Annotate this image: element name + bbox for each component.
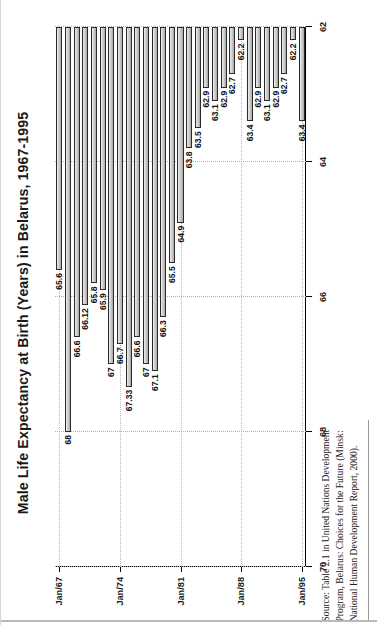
bar	[264, 27, 270, 101]
bar-value-label: 67.33	[124, 390, 134, 412]
bar-value-label: 66.6	[72, 341, 82, 358]
chart-title-container: Male Life Expectancy at Birth (Years) in…	[0, 0, 46, 625]
bar	[247, 27, 253, 122]
bar-value-label: 66.3	[158, 320, 168, 337]
bar-value-label: 63.4	[245, 125, 255, 142]
bar	[177, 27, 183, 223]
bar	[91, 27, 97, 284]
bar-value-label: 67	[106, 368, 116, 378]
value-tick	[306, 161, 312, 162]
bar-value-label: 66.12	[80, 308, 90, 330]
bar	[74, 27, 80, 338]
value-tick	[306, 26, 312, 27]
bar	[117, 27, 123, 344]
value-tick-label: 62	[318, 22, 328, 32]
category-tick-label: Jan/81	[176, 577, 186, 606]
bar	[299, 27, 305, 122]
bar	[221, 27, 227, 88]
bar-value-label: 65.6	[54, 273, 64, 290]
scan-edge-left	[0, 0, 1, 625]
bar	[203, 27, 209, 88]
bar-value-label: 68	[63, 435, 73, 445]
bar-value-label: 62.7	[279, 77, 289, 94]
category-tick	[241, 567, 242, 572]
value-tick-label: 64	[318, 157, 328, 167]
plot-rotation-wrapper: 65.66866.666.1265.865.96766.767.3366.667…	[55, 27, 306, 567]
bar-value-label: 62.2	[288, 44, 298, 61]
bar	[82, 27, 88, 305]
bar	[186, 27, 192, 149]
bar-value-label: 63.4	[297, 125, 307, 142]
scan-edge-bottom	[0, 620, 377, 622]
source-divider	[368, 420, 369, 620]
bar	[238, 27, 244, 41]
bar-value-label: 65.9	[98, 293, 108, 310]
category-tick	[59, 567, 60, 572]
bar-value-label: 66.6	[132, 341, 142, 358]
bar	[152, 27, 158, 371]
bar-value-label: 63.5	[193, 131, 203, 148]
category-tick	[120, 567, 121, 572]
bar-value-label: 62.7	[227, 77, 237, 94]
page-title: Male Life Expectancy at Birth (Years) in…	[15, 111, 31, 514]
bar	[229, 27, 235, 74]
bar	[160, 27, 166, 317]
value-tick	[306, 296, 312, 297]
bar	[134, 27, 140, 338]
bar-value-label: 67.1	[150, 374, 160, 391]
bar	[100, 27, 106, 290]
bar-value-label: 63.8	[184, 152, 194, 169]
value-tick-label: 66	[318, 292, 328, 302]
source-note-container: Source: Table 2.1 in United Nations Deve…	[303, 412, 377, 625]
gridline-horizontal	[241, 27, 242, 567]
bar	[290, 27, 296, 41]
bar	[281, 27, 287, 74]
category-tick	[181, 567, 182, 572]
bar	[143, 27, 149, 365]
category-tick-label: Jan/88	[236, 577, 246, 606]
plot-area: 65.66866.666.1265.865.96766.767.3366.667…	[55, 27, 306, 567]
category-tick-label: Jan/74	[115, 577, 125, 606]
bar-value-label: 66.7	[115, 347, 125, 364]
chart-page: Male Life Expectancy at Birth (Years) in…	[0, 0, 377, 625]
bar	[195, 27, 201, 128]
bar-value-label: 62.2	[236, 44, 246, 61]
category-tick-label: Jan/67	[54, 577, 64, 606]
bar	[169, 27, 175, 263]
bar	[273, 27, 279, 88]
bar	[65, 27, 71, 432]
bar	[108, 27, 114, 365]
bar	[56, 27, 62, 270]
bar-value-label: 64.9	[176, 226, 186, 243]
bar	[255, 27, 261, 88]
source-note: Source: Table 2.1 in United Nations Deve…	[319, 416, 361, 621]
bar	[126, 27, 132, 387]
bar-value-label: 65.5	[167, 266, 177, 283]
bar	[212, 27, 218, 101]
